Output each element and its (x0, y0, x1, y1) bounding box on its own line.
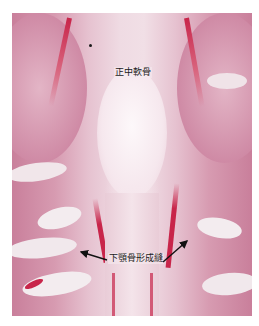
right-arrow-icon (163, 241, 187, 262)
arrows-overlay (0, 0, 259, 326)
left-arrow-icon (81, 252, 107, 260)
